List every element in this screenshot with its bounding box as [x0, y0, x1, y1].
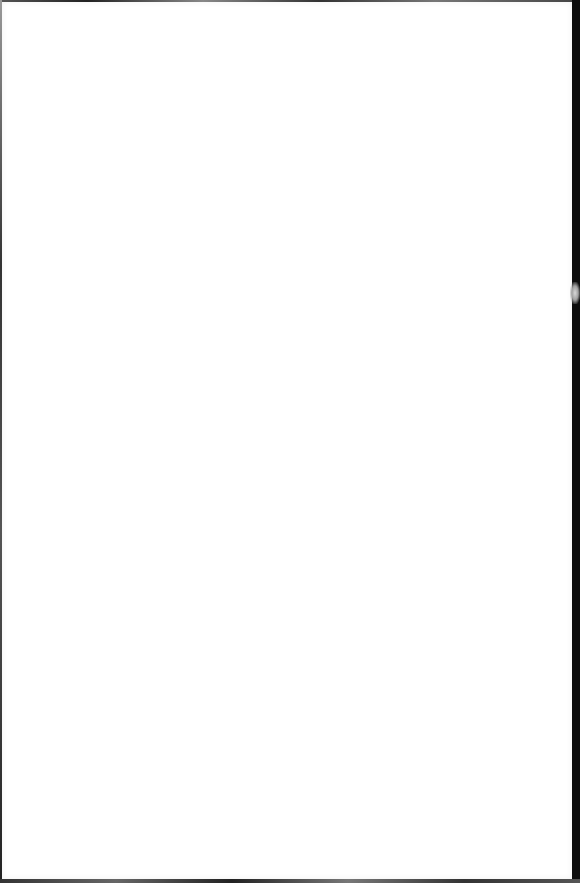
scan-edge-right	[572, 0, 580, 883]
scan-edge-bottom	[0, 879, 580, 883]
blank-page	[2, 2, 572, 879]
scan-artifact-smudge	[570, 282, 580, 304]
